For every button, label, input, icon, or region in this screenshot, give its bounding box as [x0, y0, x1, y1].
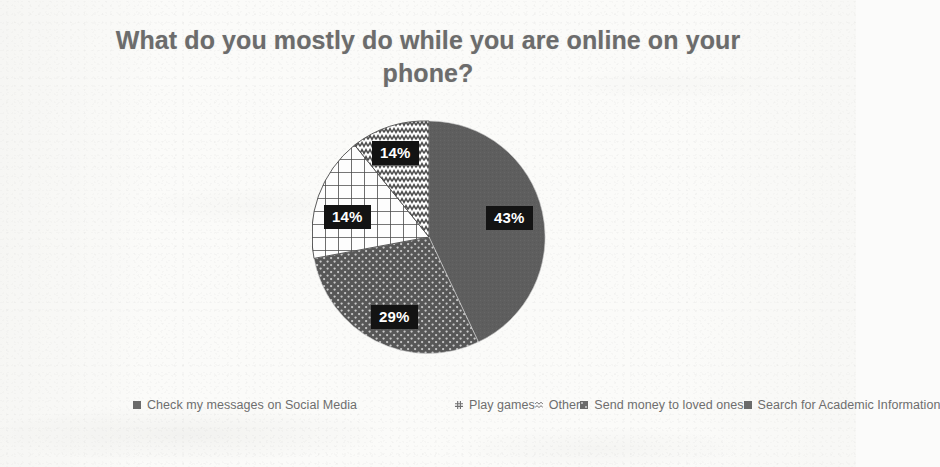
pie-data-label-43: 43%: [486, 206, 533, 230]
dotted-gray-swatch-icon: [580, 401, 588, 409]
pie-chart-svg: [312, 120, 546, 354]
chevron-swatch-icon: [535, 401, 543, 409]
legend-label: Play games: [469, 398, 535, 412]
legend-label: Search for Academic Information: [758, 398, 940, 412]
pie-data-label-14-academic: 14%: [372, 141, 419, 165]
chart-legend: Check my messages on Social Media Play g…: [133, 394, 733, 415]
legend-label: Send money to loved ones: [594, 398, 743, 412]
pie-chart: [312, 120, 546, 354]
solid-gray-swatch-icon: [744, 401, 752, 409]
solid-gray-swatch-icon: [133, 401, 141, 409]
legend-label: Check my messages on Social Media: [147, 398, 357, 412]
grid-swatch-icon: [455, 401, 463, 409]
pie-data-label-29: 29%: [371, 305, 418, 329]
legend-item-send-money-to-loved-ones[interactable]: Send money to loved ones: [580, 398, 743, 412]
legend-item-check-my-messages-on-social-media[interactable]: Check my messages on Social Media: [133, 398, 455, 412]
legend-item-other[interactable]: Other: [535, 398, 581, 412]
pie-data-label-14-play-games: 14%: [324, 205, 371, 229]
legend-item-play-games[interactable]: Play games: [455, 398, 535, 412]
legend-item-search-for-academic-information[interactable]: Search for Academic Information: [744, 398, 940, 412]
legend-label: Other: [549, 398, 581, 412]
chart-title: What do you mostly do while you are onli…: [0, 24, 856, 89]
